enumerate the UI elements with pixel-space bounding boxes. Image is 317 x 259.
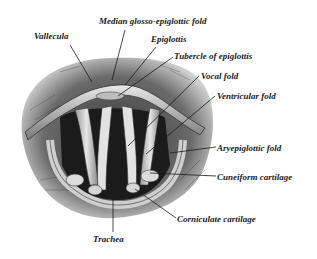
label-epiglottis: Epiglottis [151,34,187,44]
left-corniculate [88,185,102,195]
label-tubercle-of-epiglottis: Tubercle of epiglottis [174,51,252,61]
label-corniculate-cartilage: Corniculate cartilage [177,214,256,224]
larynx-diagram: Median glosso-epiglottic fold Vallecula … [0,0,317,259]
left-cuneiform [66,174,84,186]
label-cuneiform-cartilage: Cuneiform cartilage [217,172,292,182]
label-aryepiglottic-fold: Aryepiglottic fold [217,143,281,153]
label-vocal-fold: Vocal fold [201,71,238,81]
label-vallecula: Vallecula [34,31,69,41]
right-cuneiform [141,170,159,182]
label-trachea: Trachea [93,234,124,244]
label-median-glosso-epiglottic-fold: Median glosso-epiglottic fold [99,16,207,26]
label-ventricular-fold: Ventricular fold [217,91,276,101]
